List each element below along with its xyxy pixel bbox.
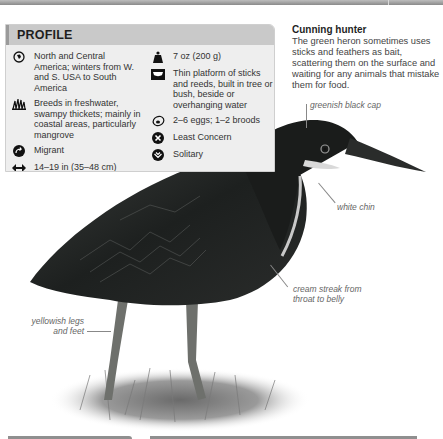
profile-item-migration: Migrant	[12, 145, 142, 157]
globe-range-icon	[12, 51, 26, 63]
profile-right-column: 7 oz (200 g) Thin platform of sticks and…	[151, 51, 273, 166]
profile-item-status: Least Concern	[151, 132, 273, 144]
leader-line-cap	[306, 104, 307, 128]
profile-item-nest: Thin platform of sticks and reeds, built…	[151, 68, 273, 110]
profile-item-range: North and Central America; winters from …	[12, 51, 142, 93]
profile-item-habitat: Breeds in freshwater, swampy thickets; m…	[12, 98, 142, 140]
habitat-text: Breeds in freshwater, swampy thickets; m…	[34, 98, 142, 140]
conservation-status-icon	[151, 132, 165, 144]
nest-icon	[151, 68, 165, 80]
egg-icon	[151, 115, 165, 127]
range-text: North and Central America; winters from …	[34, 51, 142, 93]
social-text: Solitary	[173, 149, 203, 160]
profile-item-eggs: 2–6 eggs; 1–2 broods	[151, 115, 273, 127]
callout-cap: greenish black cap	[310, 100, 381, 110]
reeds-habitat-icon	[12, 98, 26, 110]
social-behavior-icon	[151, 149, 165, 161]
callout-streak: cream streak from throat to belly	[293, 284, 373, 304]
profile-left-column: North and Central America; winters from …	[12, 51, 142, 172]
leader-line-legs	[87, 331, 111, 332]
profile-title: PROFILE	[6, 25, 274, 45]
callout-chin: white chin	[337, 202, 375, 212]
side-note-body: The green heron sometimes uses sticks an…	[292, 36, 442, 91]
profile-item-weight: 7 oz (200 g)	[151, 51, 273, 63]
status-text: Least Concern	[173, 132, 232, 143]
profile-panel: PROFILE North and Central America; winte…	[5, 24, 275, 172]
eggs-text: 2–6 eggs; 1–2 broods	[173, 115, 260, 126]
profile-item-length: 14–19 in (35–48 cm)	[12, 162, 142, 172]
side-note-title: Cunning hunter	[292, 24, 442, 35]
migration-text: Migrant	[34, 145, 64, 156]
callout-legs: yellowish legs and feet	[28, 316, 84, 336]
weight-text: 7 oz (200 g)	[173, 51, 221, 62]
migration-arrow-icon	[12, 145, 26, 157]
nest-text: Thin platform of sticks and reeds, built…	[173, 68, 273, 110]
weight-icon	[151, 51, 165, 63]
side-note: Cunning hunter The green heron sometimes…	[292, 24, 442, 91]
length-text: 14–19 in (35–48 cm)	[34, 162, 117, 172]
length-arrows-icon	[12, 162, 26, 172]
profile-item-social: Solitary	[151, 149, 273, 161]
